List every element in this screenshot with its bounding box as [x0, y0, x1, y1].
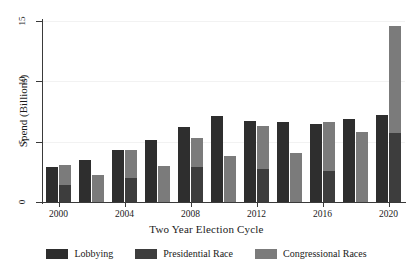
x-tick	[59, 202, 60, 207]
bar-segment-congressional-races	[323, 122, 335, 171]
bar-stacked-races	[158, 166, 170, 202]
x-axis-title: Two Year Election Cycle	[0, 223, 413, 235]
legend-swatch-congressional-races	[255, 249, 277, 259]
bar-stacked-races	[389, 26, 401, 202]
bar-lobbying	[178, 127, 190, 202]
bar-segment-congressional-races	[158, 166, 170, 202]
legend-swatch-lobbying	[46, 249, 68, 259]
bar-group	[112, 21, 137, 202]
bar-segment-congressional-races	[356, 132, 368, 202]
legend-swatch-presidential-race	[135, 249, 157, 259]
x-tick	[323, 202, 324, 207]
bar-stacked-races	[224, 156, 236, 202]
bar-segment-congressional-races	[257, 126, 269, 169]
bar-lobbying	[376, 115, 388, 202]
legend-item-presidential-race: Presidential Race	[135, 248, 233, 259]
bar-segment-presidential-race	[59, 185, 71, 202]
bar-stacked-races	[290, 153, 302, 202]
bar-segment-congressional-races	[92, 175, 104, 202]
y-tick-label-0: 0	[17, 193, 27, 211]
x-tick-label: 2004	[105, 209, 145, 219]
legend-item-congressional-races: Congressional Races	[255, 248, 367, 259]
bar-group	[244, 21, 269, 202]
bar-segment-presidential-race	[257, 169, 269, 202]
x-tick-label: 2020	[369, 209, 409, 219]
legend-label-congressional-races: Congressional Races	[283, 248, 367, 259]
bar-lobbying	[244, 121, 256, 202]
legend-label-lobbying: Lobbying	[74, 248, 113, 259]
bar-segment-presidential-race	[389, 133, 401, 202]
x-tick	[389, 202, 390, 207]
bar-segment-congressional-races	[290, 153, 302, 202]
x-tick	[191, 202, 192, 207]
y-tick-15	[36, 21, 42, 22]
bar-group	[145, 21, 170, 202]
bar-stacked-races	[323, 122, 335, 202]
x-tick-label: 2016	[303, 209, 343, 219]
bar-lobbying	[79, 160, 91, 202]
bar-segment-presidential-race	[323, 171, 335, 202]
bar-group	[376, 21, 401, 202]
bar-group	[79, 21, 104, 202]
bar-segment-congressional-races	[125, 150, 137, 178]
bar-segment-congressional-races	[389, 26, 401, 133]
bar-lobbying	[277, 122, 289, 202]
bar-group	[46, 21, 71, 202]
bar-lobbying	[310, 124, 322, 202]
y-tick-0	[36, 202, 42, 203]
bar-stacked-races	[356, 132, 368, 202]
bar-lobbying	[46, 167, 58, 202]
chart-container: 15 10 5 0 200020042008201220162020 Two Y…	[0, 0, 413, 274]
plot-area	[42, 21, 405, 202]
x-tick	[125, 202, 126, 207]
legend-item-lobbying: Lobbying	[46, 248, 113, 259]
y-tick-5	[36, 142, 42, 143]
bar-lobbying	[211, 116, 223, 202]
bar-group	[277, 21, 302, 202]
y-axis-title: Spend (Billions)	[17, 36, 29, 186]
bar-stacked-races	[59, 165, 71, 202]
bar-stacked-races	[257, 126, 269, 202]
y-tick-label-15: 15	[17, 12, 27, 30]
y-tick-10	[36, 81, 42, 82]
x-tick	[257, 202, 258, 207]
bar-lobbying	[343, 119, 355, 202]
bar-group	[211, 21, 236, 202]
bar-segment-presidential-race	[191, 167, 203, 202]
y-axis-line	[42, 19, 43, 204]
chart-legend: Lobbying Presidential Race Congressional…	[0, 248, 413, 259]
bar-lobbying	[145, 140, 157, 202]
bar-stacked-races	[125, 150, 137, 202]
bar-lobbying	[112, 150, 124, 202]
bar-segment-congressional-races	[191, 138, 203, 167]
bar-segment-congressional-races	[224, 156, 236, 202]
legend-label-presidential-race: Presidential Race	[163, 248, 233, 259]
bar-stacked-races	[92, 175, 104, 202]
x-tick-label: 2000	[39, 209, 79, 219]
x-axis-line	[42, 202, 406, 203]
bar-group	[178, 21, 203, 202]
bar-segment-congressional-races	[59, 165, 71, 186]
bar-group	[343, 21, 368, 202]
bar-stacked-races	[191, 138, 203, 202]
bar-segment-presidential-race	[125, 178, 137, 202]
bar-group	[310, 21, 335, 202]
x-tick-label: 2008	[171, 209, 211, 219]
x-tick-label: 2012	[237, 209, 277, 219]
